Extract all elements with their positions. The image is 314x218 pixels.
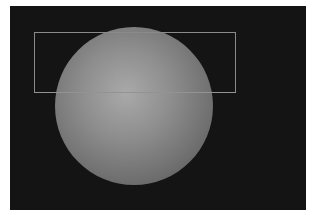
selection-rectangle[interactable]: selection bbox=[34, 32, 236, 93]
selection-edge-line bbox=[34, 92, 236, 93]
render-viewport[interactable]: sphere selection bbox=[10, 6, 306, 210]
